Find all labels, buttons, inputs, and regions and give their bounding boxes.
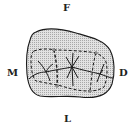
junction-point <box>53 49 55 51</box>
tooth-diagram <box>0 0 134 127</box>
junction-point <box>95 52 97 54</box>
junction-point <box>56 85 58 87</box>
junction-point <box>89 90 91 92</box>
